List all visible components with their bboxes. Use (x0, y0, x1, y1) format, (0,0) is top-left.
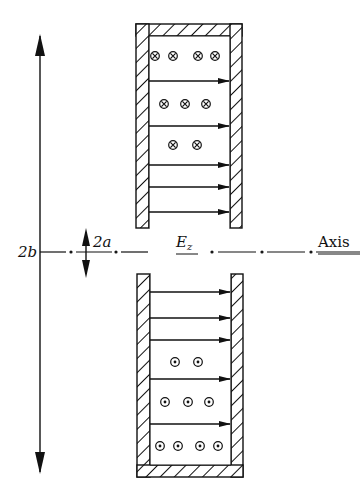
inner-diameter-arrow (82, 228, 90, 278)
field-label: Ez (175, 233, 193, 252)
outer-diameter-label: 2b (17, 243, 37, 261)
axis-line (40, 251, 360, 253)
arrow-down-icon (35, 452, 45, 474)
lower-cavity (137, 274, 243, 477)
axis-label: Axis (317, 233, 350, 251)
arrow-up-icon (35, 34, 45, 56)
upper-cavity (136, 24, 242, 228)
inner-diameter-label: 2a (92, 233, 112, 251)
coaxial-cavity-diagram: 2b 2a Ez Axis (0, 0, 363, 496)
